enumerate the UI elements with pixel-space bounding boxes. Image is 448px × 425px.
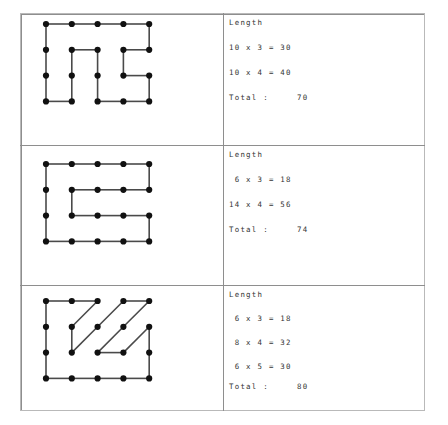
grid-dot xyxy=(43,72,49,78)
total-value: 74 xyxy=(297,225,308,234)
grid-dot xyxy=(146,161,152,167)
grid-dot xyxy=(120,212,126,218)
grid-dot xyxy=(69,21,75,27)
table-row-3-calc: Length 6 x 3 = 18 8 x 4 = 32 6 x 5 = 30 … xyxy=(229,290,419,410)
grid-dot xyxy=(94,47,100,53)
grid-dot xyxy=(43,349,49,355)
length-header: Length xyxy=(229,290,263,299)
grid-dot xyxy=(69,212,75,218)
shape-edge xyxy=(72,327,98,353)
shape-edge xyxy=(123,301,149,327)
calc-line-3: 6 x 5 = 30 xyxy=(229,362,292,371)
grid-dot xyxy=(120,187,126,193)
table-row-3-diagram xyxy=(40,295,155,384)
grid-dot xyxy=(43,238,49,244)
grid-dot xyxy=(43,375,49,381)
grid-dot xyxy=(120,161,126,167)
grid-dot xyxy=(94,324,100,330)
grid-dot xyxy=(120,47,126,53)
grid-dot xyxy=(146,298,152,304)
grid-dot xyxy=(43,324,49,330)
grid-dot xyxy=(94,21,100,27)
grid-dot xyxy=(69,187,75,193)
length-header: Length xyxy=(229,150,263,159)
calc-line-2: 14 x 4 = 56 xyxy=(229,200,292,209)
grid-dot xyxy=(69,72,75,78)
total-value: 70 xyxy=(297,93,308,102)
table-row-1-diagram xyxy=(40,18,155,107)
total-label: Total : xyxy=(229,225,269,234)
dot-grid-svg xyxy=(40,18,155,107)
table-row-2-calc: Length 6 x 3 = 18 14 x 4 = 56 Total : 74 xyxy=(229,150,419,270)
grid-dot xyxy=(146,324,152,330)
grid-dot xyxy=(146,21,152,27)
grid-dot xyxy=(43,298,49,304)
grid-dot xyxy=(94,375,100,381)
grid-dot xyxy=(94,349,100,355)
dot-grid-svg xyxy=(40,295,155,384)
shape-edge xyxy=(98,327,124,353)
grid-dot xyxy=(94,187,100,193)
calc-line-1: 6 x 3 = 18 xyxy=(229,175,292,184)
grid-dot xyxy=(120,238,126,244)
grid-dot xyxy=(69,161,75,167)
calc-line-1: 10 x 3 = 30 xyxy=(229,43,292,52)
grid-dot xyxy=(146,98,152,104)
grid-dot xyxy=(43,47,49,53)
grid-dot xyxy=(146,349,152,355)
dot-grid-svg xyxy=(40,158,155,247)
length-header: Length xyxy=(229,18,263,27)
grid-dot xyxy=(146,72,152,78)
grid-dot xyxy=(120,21,126,27)
table-row-2-diagram xyxy=(40,158,155,247)
column-divider xyxy=(223,13,224,411)
grid-dot xyxy=(94,161,100,167)
grid-dot xyxy=(69,47,75,53)
grid-dot xyxy=(120,324,126,330)
grid-dot xyxy=(69,324,75,330)
grid-dot xyxy=(43,98,49,104)
total-label: Total : xyxy=(229,93,269,102)
grid-dot xyxy=(69,375,75,381)
grid-dot xyxy=(94,212,100,218)
grid-dot xyxy=(69,238,75,244)
grid-dot xyxy=(94,238,100,244)
grid-dot xyxy=(69,298,75,304)
grid-dot xyxy=(120,72,126,78)
calc-line-2: 8 x 4 = 32 xyxy=(229,338,292,347)
grid-dot xyxy=(146,375,152,381)
grid-dot xyxy=(43,21,49,27)
grid-dot xyxy=(120,298,126,304)
grid-dot xyxy=(120,349,126,355)
grid-dot xyxy=(94,298,100,304)
grid-dot xyxy=(120,98,126,104)
grid-dot xyxy=(69,98,75,104)
worksheet-figure: Length 10 x 3 = 30 10 x 4 = 40 Total : 7… xyxy=(0,0,448,425)
grid-dot xyxy=(69,349,75,355)
total-value: 80 xyxy=(297,382,308,391)
calc-line-2: 10 x 4 = 40 xyxy=(229,68,292,77)
total-label: Total : xyxy=(229,382,269,391)
grid-dot xyxy=(146,187,152,193)
grid-dot xyxy=(146,212,152,218)
grid-dot xyxy=(94,98,100,104)
table-row-1-calc: Length 10 x 3 = 30 10 x 4 = 40 Total : 7… xyxy=(229,18,419,138)
shape-edge xyxy=(72,301,98,327)
shape-edge xyxy=(123,327,149,353)
grid-dot xyxy=(43,161,49,167)
grid-dot xyxy=(94,72,100,78)
shape-edge xyxy=(98,301,124,327)
grid-dot xyxy=(146,238,152,244)
grid-dot xyxy=(120,375,126,381)
grid-dot xyxy=(146,47,152,53)
calc-line-1: 6 x 3 = 18 xyxy=(229,314,292,323)
grid-dot xyxy=(43,212,49,218)
grid-dot xyxy=(43,187,49,193)
